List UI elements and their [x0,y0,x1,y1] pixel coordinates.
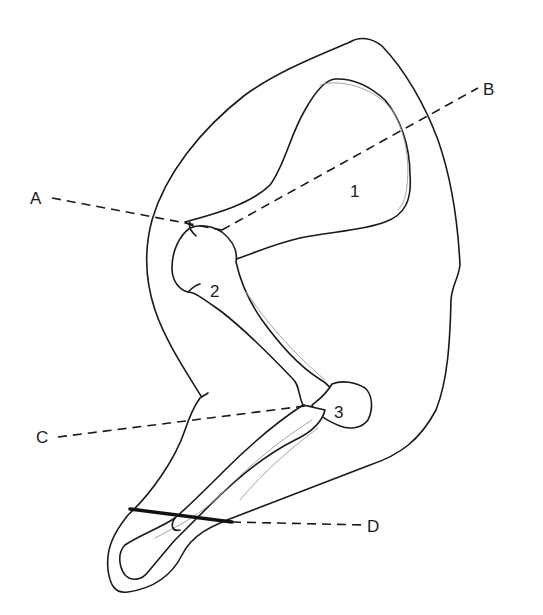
label-a: A [30,189,42,208]
leader-line-d [232,522,365,525]
number-2: 2 [210,282,219,301]
label-d: D [367,517,379,536]
label-c: C [36,428,48,447]
label-b: B [483,80,494,99]
outer-outline [108,39,460,593]
number-3: 3 [334,403,343,422]
wing-skeleton-diagram: A B C D 1 2 3 [0,0,543,615]
number-1: 1 [350,182,359,201]
